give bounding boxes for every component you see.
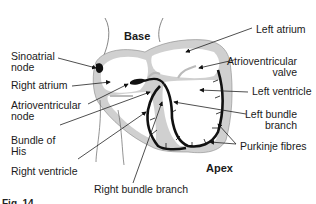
leader-sinoatrial-node bbox=[58, 58, 96, 68]
vessel-outline-mid bbox=[159, 18, 163, 42]
label-right-bundle-branch: Right bundle branch bbox=[94, 184, 188, 195]
label-left-ventricle: Left ventricle bbox=[252, 86, 312, 97]
label-left-bundle-branch: Left bundle branch bbox=[245, 109, 297, 131]
right-atrium-chamber bbox=[101, 57, 148, 93]
label-right-atrium: Right atrium bbox=[11, 80, 68, 91]
label-apex: Apex bbox=[206, 163, 233, 174]
label-atrioventricular-valve: Atrioventricular valve bbox=[227, 56, 297, 78]
label-right-ventricle: Right ventricle bbox=[11, 166, 78, 177]
left-atrium-chamber bbox=[151, 49, 219, 79]
label-sinoatrial-node: Sinoatrial node bbox=[11, 51, 55, 73]
label-purkinje-fibres: Purkinje fibres bbox=[240, 141, 307, 152]
figure-caption: Fig. 14 bbox=[2, 198, 34, 204]
label-atrioventricular-node: Atrioventricular node bbox=[11, 100, 81, 122]
label-left-atrium: Left atrium bbox=[256, 24, 306, 35]
label-base: Base bbox=[124, 31, 150, 42]
label-bundle-of-his: Bundle of His bbox=[11, 135, 55, 157]
vessel-outline-left bbox=[104, 18, 109, 55]
